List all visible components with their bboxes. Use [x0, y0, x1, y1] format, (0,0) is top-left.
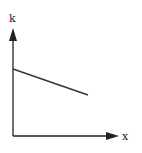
data-line [13, 69, 88, 95]
x-axis-label: x [122, 130, 129, 143]
y-axis-label: k [9, 12, 16, 25]
k-vs-x-diagram: k x [0, 0, 142, 153]
x-axis-arrow-icon [106, 132, 119, 140]
y-axis-arrow-icon [9, 28, 17, 41]
